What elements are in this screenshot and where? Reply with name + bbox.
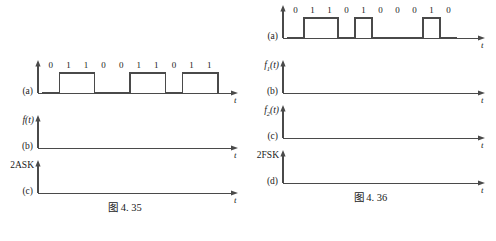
axis-block-a: (a)0110100010t (245, 0, 496, 50)
axis-tag: (b) (245, 87, 278, 97)
nrz-waveform (287, 18, 457, 38)
axis-block-c: f2(t)(c)t (245, 100, 496, 150)
y-axis-label: f1(t) (245, 61, 279, 72)
bit-digit: 1 (423, 6, 440, 15)
y-axis-arrowhead (280, 150, 285, 157)
y-axis-arrowhead (35, 60, 40, 67)
y-axis-arrowhead (280, 5, 285, 12)
axis-tag: (a) (0, 87, 33, 97)
bit-digit: 0 (389, 6, 406, 15)
bit-digit: 1 (130, 61, 148, 70)
axis-graphic (245, 55, 496, 105)
bit-digit: 0 (42, 61, 60, 70)
bit-digit: 0 (372, 6, 389, 15)
bit-digit: 0 (287, 6, 304, 15)
y-axis-arrowhead (35, 115, 40, 122)
y-axis-label: f2(t) (245, 106, 279, 117)
bit-digit: 0 (95, 61, 113, 70)
bit-sequence: 0110100010 (287, 6, 457, 15)
nrz-waveform (42, 73, 218, 93)
axis-graphic (245, 145, 496, 195)
axis-tag: (d) (245, 177, 278, 187)
bit-digit: 0 (112, 61, 130, 70)
axis-block-a: (a)0110011011t (0, 55, 250, 105)
bit-digit: 1 (200, 61, 218, 70)
figure-4-36: (a)0110100010tf1(t)(b)tf2(t)(c)t2FSK(d)t… (245, 0, 496, 241)
bit-sequence: 0110011011 (42, 61, 218, 70)
y-axis-label: 2ASK (0, 161, 34, 171)
bit-digit: 0 (440, 6, 457, 15)
y-axis-arrowhead (280, 105, 285, 112)
t-axis-label: t (481, 41, 484, 50)
bit-digit: 1 (183, 61, 201, 70)
figure-4-35: (a)0110011011tf(t)(b)t2ASK(c)t图 4. 35 (0, 55, 250, 241)
bit-digit: 0 (165, 61, 183, 70)
axis-graphic (0, 155, 250, 205)
bit-digit: 0 (406, 6, 423, 15)
axis-block-c: 2ASK(c)t (0, 155, 250, 205)
bit-digit: 0 (338, 6, 355, 15)
axis-block-b: f(t)(b)t (0, 110, 250, 160)
axis-block-d: 2FSK(d)t (245, 145, 496, 195)
t-axis-label: t (234, 96, 237, 105)
figure-caption: 图 4. 35 (0, 203, 250, 214)
axis-tag: (c) (245, 132, 278, 142)
bit-digit: 1 (148, 61, 166, 70)
axis-tag: (a) (245, 32, 278, 42)
bit-digit: 1 (60, 61, 78, 70)
axis-tag: (c) (0, 187, 33, 197)
axis-graphic (245, 100, 496, 150)
y-axis-arrowhead (280, 60, 285, 67)
axis-tag: (b) (0, 142, 33, 152)
axis-block-b: f1(t)(b)t (245, 55, 496, 105)
y-axis-label: 2FSK (245, 151, 279, 161)
bit-digit: 1 (77, 61, 95, 70)
y-axis-label: f(t) (0, 116, 34, 126)
bit-digit: 1 (321, 6, 338, 15)
y-axis-arrowhead (35, 160, 40, 167)
axis-graphic (0, 110, 250, 160)
figure-caption: 图 4. 36 (245, 193, 496, 204)
bit-digit: 1 (355, 6, 372, 15)
bit-digit: 1 (304, 6, 321, 15)
